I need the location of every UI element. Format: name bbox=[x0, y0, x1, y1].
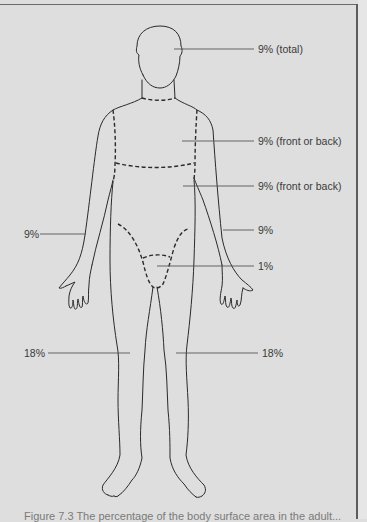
waist-boundary-dashed bbox=[116, 163, 194, 168]
label-right-leg: 18% bbox=[262, 347, 283, 359]
label-genitals: 1% bbox=[258, 260, 273, 272]
right-leg-outer bbox=[186, 180, 205, 496]
left-arm-outer bbox=[59, 110, 113, 288]
groin-boundary-dashed bbox=[143, 255, 170, 258]
left-foot-toes bbox=[108, 495, 118, 497]
left-shoulder-boundary-dashed bbox=[113, 110, 115, 182]
label-chest: 9% (front or back) bbox=[258, 135, 341, 147]
left-leg-outer bbox=[102, 182, 120, 495]
label-left-arm: 9% bbox=[24, 228, 39, 240]
left-leg-inner bbox=[118, 287, 153, 496]
label-right-arm: 9% bbox=[258, 224, 273, 236]
shoulder-left bbox=[113, 98, 142, 110]
hip-boundary-dashed bbox=[118, 224, 188, 288]
label-head: 9% (total) bbox=[258, 43, 303, 55]
neck-boundary-dashed bbox=[142, 98, 175, 100]
head-outline bbox=[136, 26, 182, 88]
right-hand bbox=[220, 265, 243, 309]
neck-right bbox=[174, 80, 175, 98]
shoulder-right bbox=[175, 98, 197, 110]
figure-caption-partial: Figure 7.3 The percentage of the body su… bbox=[24, 510, 341, 522]
right-foot-toes bbox=[196, 496, 202, 497]
left-hand bbox=[66, 265, 92, 309]
right-arm-outer bbox=[197, 110, 253, 291]
label-left-leg: 18% bbox=[24, 347, 45, 359]
right-shoulder-boundary-dashed bbox=[194, 110, 197, 180]
label-abdomen: 9% (front or back) bbox=[258, 180, 341, 192]
